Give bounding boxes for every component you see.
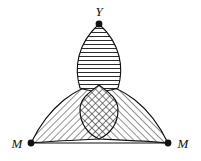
left-vertex-dot	[28, 140, 35, 147]
right-vertex-dot	[165, 140, 172, 147]
left-vertex-label: M	[11, 136, 24, 151]
right-vertex-label: M	[177, 136, 190, 151]
figure-root: Y M M	[0, 0, 201, 161]
three-petal-overlap-diagram: Y M M	[0, 0, 201, 161]
apex-vertex-dot	[96, 21, 103, 28]
